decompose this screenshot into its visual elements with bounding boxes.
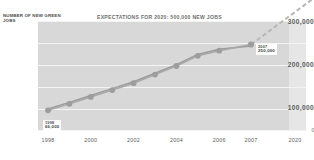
- x-tick-2007: 2007: [245, 137, 258, 143]
- actual-line: [48, 45, 251, 111]
- green-jobs-line-chart: NUMBER OF NEW GREEN JOBS EXPECTATIONS FO…: [0, 0, 314, 160]
- x-tick-2004: 2004: [170, 137, 183, 143]
- projection-line: [251, 0, 314, 45]
- x-tick-2002: 2002: [127, 137, 140, 143]
- x-tick-2000: 2000: [84, 137, 97, 143]
- x-tick-1998: 1998: [42, 137, 55, 143]
- x-tick-2006: 2006: [213, 137, 226, 143]
- end-callout-value: 250,000: [258, 49, 275, 53]
- series-layer: [0, 0, 314, 160]
- start-callout-value: 66,000: [45, 125, 59, 129]
- x-tick-2020: 2020: [289, 137, 302, 143]
- start-callout: 1998 66,000: [43, 120, 61, 131]
- end-callout: 2007 250,000: [256, 44, 277, 55]
